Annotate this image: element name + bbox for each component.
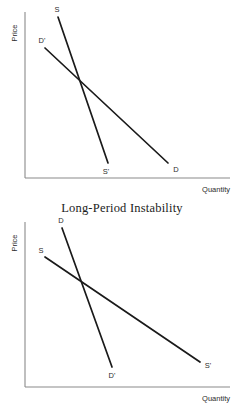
curve-supply-top [58, 17, 108, 163]
curve-label-supply-bottom-end: S' [205, 361, 212, 370]
x-axis-label-top: Quantity [202, 185, 230, 194]
y-axis-label-bottom: Price [10, 234, 19, 251]
curve-label-supply-bottom-start: S [38, 246, 43, 255]
curve-supply-bottom [45, 257, 200, 362]
curve-label-supply-top-start: S [54, 5, 59, 14]
curve-label-supply-top-end: S' [103, 167, 110, 176]
curve-label-demand-bottom-end: D' [109, 371, 116, 380]
curve-label-demand-top-start: D' [39, 36, 46, 45]
figure-short-period: S S' D' D Quantity Price [0, 0, 244, 196]
page-canvas: S S' D' D Quantity Price Long-Period Ins… [0, 0, 244, 411]
y-axis-label-top: Price [10, 24, 19, 41]
curve-demand-top [45, 48, 168, 163]
curve-label-demand-top-end: D [173, 165, 179, 174]
curve-label-demand-bottom-start: D [58, 216, 64, 225]
x-axis-label-bottom: Quantity [202, 394, 230, 403]
plot-area-bottom: D D' S S' Quantity Price [0, 196, 244, 411]
figure-long-period-instability: Long-Period Instability D D' S S' Quanti… [0, 196, 244, 411]
plot-area-top: S S' D' D Quantity Price [0, 0, 244, 196]
